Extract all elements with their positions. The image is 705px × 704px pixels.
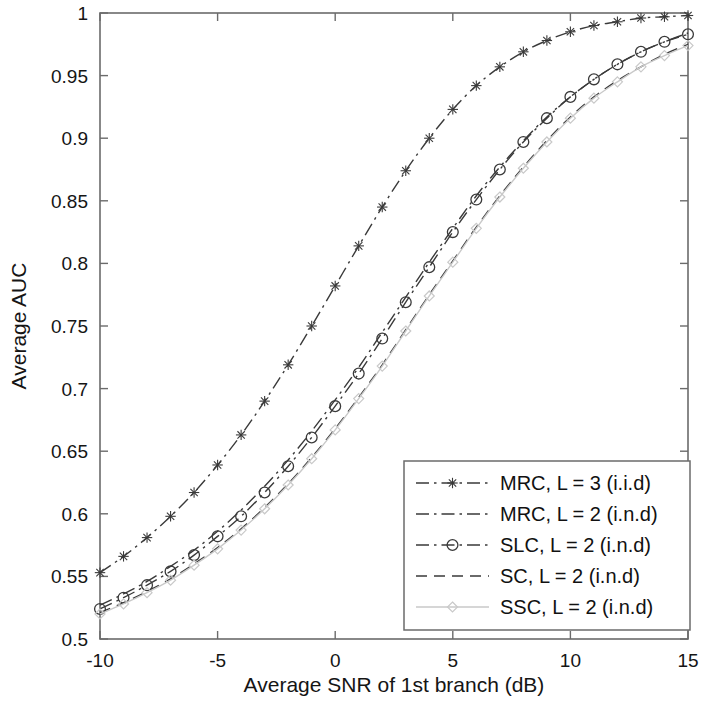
y-tick-label: 0.7 [62, 379, 88, 400]
legend-marker [447, 478, 457, 488]
y-tick-label: 0.75 [51, 316, 88, 337]
y-tick-label: 0.9 [62, 128, 88, 149]
x-tick-label: 15 [677, 650, 698, 671]
legend-item-label[interactable]: SSC, L = 2 (i.n.d) [500, 596, 653, 618]
chart-figure: -10-5051015 0.50.550.60.650.70.750.80.85… [0, 0, 705, 704]
y-tick-label: 0.5 [62, 629, 88, 650]
y-tick-label: 0.6 [62, 504, 88, 525]
y-tick-label: 0.95 [51, 66, 88, 87]
y-axis-title: Average AUC [7, 263, 30, 390]
legend-item-label[interactable]: SLC, L = 2 (i.n.d) [500, 534, 651, 556]
legend-item-label[interactable]: SC, L = 2 (i.n.d) [500, 565, 640, 587]
y-tick-labels: 0.50.550.60.650.70.750.80.850.90.951 [51, 3, 88, 650]
y-tick-label: 0.85 [51, 191, 88, 212]
x-tick-label: -5 [209, 650, 226, 671]
y-tick-label: 0.65 [51, 441, 88, 462]
plot-canvas: -10-5051015 0.50.550.60.650.70.750.80.85… [0, 0, 705, 704]
y-tick-label: 0.55 [51, 566, 88, 587]
legend-item-label[interactable]: MRC, L = 3 (i.i.d) [500, 472, 651, 494]
x-tick-label: 0 [330, 650, 341, 671]
x-axis-title: Average SNR of 1st branch (dB) [244, 673, 545, 696]
x-tick-label: -10 [86, 650, 113, 671]
x-tick-label: 5 [448, 650, 459, 671]
legend-item-label[interactable]: MRC, L = 2 (i.n.d) [500, 503, 658, 525]
chart-legend: MRC, L = 3 (i.i.d)MRC, L = 2 (i.n.d)SLC,… [404, 461, 690, 630]
y-tick-label: 1 [77, 3, 88, 24]
x-tick-labels: -10-5051015 [86, 650, 698, 671]
x-tick-label: 10 [560, 650, 581, 671]
y-tick-label: 0.8 [62, 253, 88, 274]
